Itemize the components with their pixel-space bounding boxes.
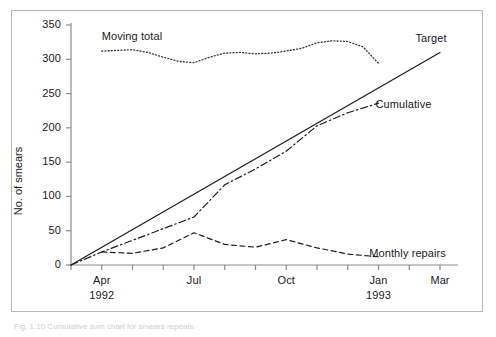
y-axis-tick-label: 150: [27, 155, 61, 167]
chart-axes: [66, 23, 458, 270]
y-axis-tick-label: 200: [27, 121, 61, 133]
series-annotation-monthly-repairs: Monthly repairs: [369, 247, 446, 259]
y-axis-title: No. of smears: [12, 141, 24, 221]
series-annotation-cumulative: Cumulative: [375, 98, 431, 110]
y-axis-tick-label: 100: [27, 189, 61, 201]
x-axis-year-label: 1992: [77, 289, 127, 301]
x-axis-tick-label: Oct: [261, 274, 311, 286]
y-axis-tick-label: 300: [27, 52, 61, 64]
figure-caption: Fig. 1.10 Cumulative sum chart for smear…: [14, 322, 194, 331]
x-axis-tick-label: Jan: [354, 274, 404, 286]
y-axis-tick-label: 250: [27, 87, 61, 99]
y-axis-tick-label: 50: [27, 224, 61, 236]
x-axis-tick-label: Apr: [77, 274, 127, 286]
x-axis-year-label: 1993: [354, 289, 404, 301]
cusum-chart: [0, 0, 496, 337]
y-axis-tick-label: 0: [27, 258, 61, 270]
x-axis-tick-label: Jul: [169, 274, 219, 286]
chart-series: [71, 41, 440, 265]
x-axis-tick-label: Mar: [415, 274, 465, 286]
y-axis-tick-label: 350: [27, 18, 61, 30]
series-annotation-moving-total: Moving total: [102, 30, 163, 42]
series-annotation-target: Target: [415, 32, 446, 44]
